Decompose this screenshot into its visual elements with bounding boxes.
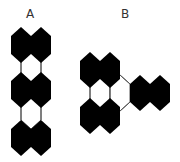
panel-b-structure [80,52,170,134]
filled-hexagon [130,75,150,111]
panel-a-filled-hexagons [11,27,51,156]
hexagon-diagram [0,0,180,162]
panel-a-structure [11,27,51,156]
filled-hexagon [150,75,170,111]
